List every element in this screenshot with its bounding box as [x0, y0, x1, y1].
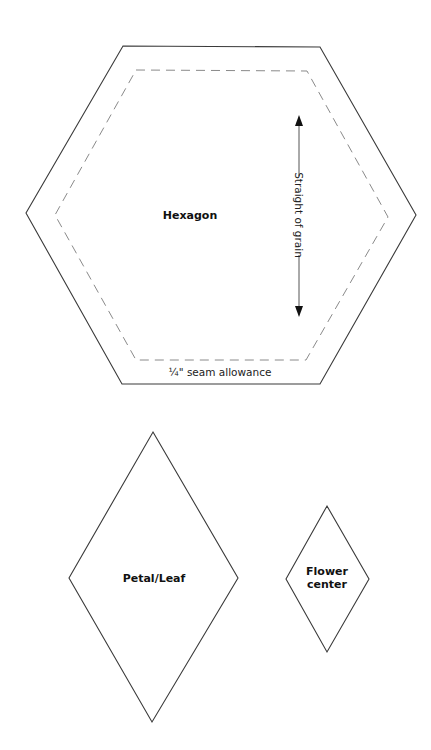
petal-leaf-template: Petal/Leaf [69, 432, 238, 722]
quilt-template-diagram: Hexagon Straight of grain ¼" seam allowa… [0, 0, 431, 750]
hexagon-template: Hexagon Straight of grain ¼" seam allowa… [26, 46, 416, 384]
hexagon-label: Hexagon [163, 209, 217, 222]
seam-allowance-label: ¼" seam allowance [169, 366, 272, 378]
hexagon-outer-cut-line [26, 46, 416, 384]
flower-center-label-line1: Flower [306, 565, 348, 578]
petal-leaf-label: Petal/Leaf [123, 572, 186, 585]
flower-center-label-line2: center [307, 578, 348, 591]
flower-center-template: Flower center [286, 506, 369, 652]
grain-label: Straight of grain [293, 172, 305, 258]
